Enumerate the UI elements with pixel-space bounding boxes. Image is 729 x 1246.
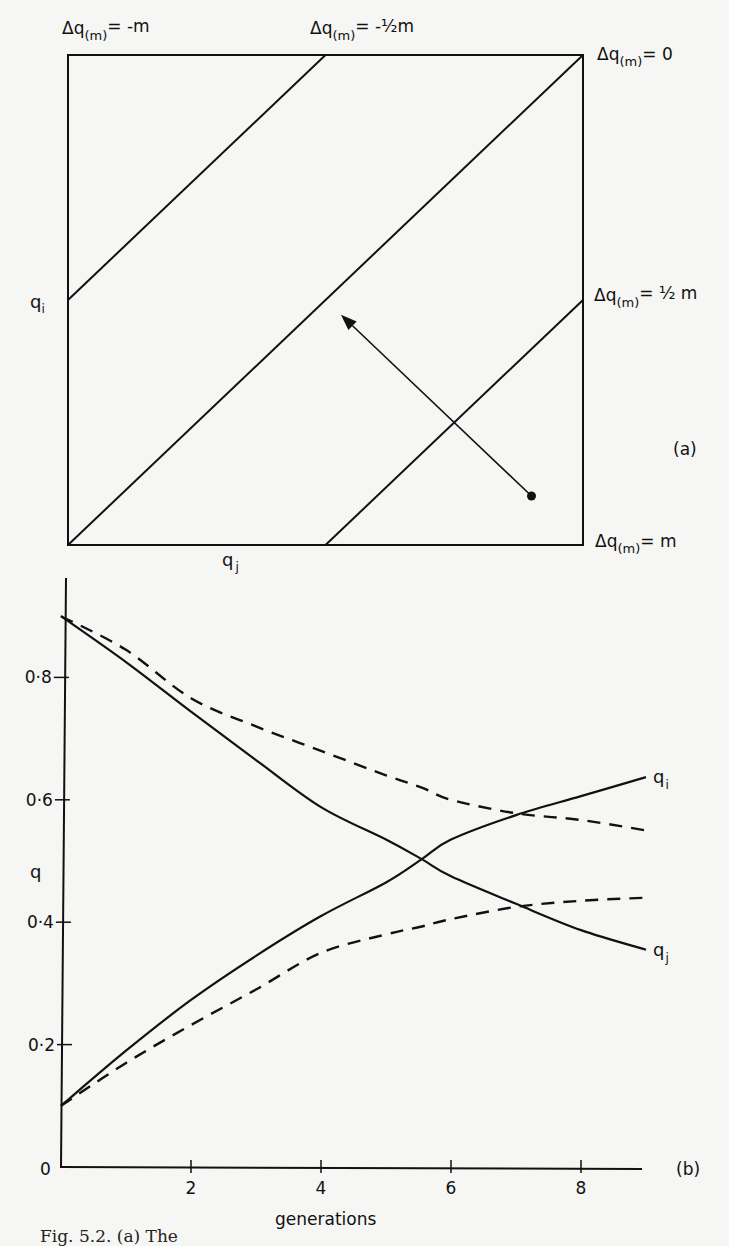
x-tick-label: 8 [576, 1178, 587, 1198]
start-point-dot [527, 492, 536, 501]
label-pos-m: Δq(m)= m [595, 531, 676, 556]
series-end-labels: qiqj [653, 766, 669, 965]
y-axis-label: q [30, 861, 41, 882]
series-line-q-j-dashed [61, 616, 646, 830]
axis-label-qi: qi [30, 291, 45, 316]
panel-b-line-chart: 2468 0·20·40·60·8 qiqj 0 q generations (… [25, 578, 700, 1229]
y-tick-label: 0·2 [28, 1035, 55, 1055]
x-tick-label: 6 [446, 1178, 457, 1198]
trajectory-arrow [353, 326, 532, 496]
panel-a-phase-diagram: Δq(m)= -m Δq(m)= -½m Δq(m)= 0 Δq(m)= ½ m… [30, 16, 697, 574]
label-neg-half-m: Δq(m)= -½m [310, 16, 414, 43]
series-line-q-i-dashed [61, 898, 646, 1106]
panel-label-b: (b) [676, 1159, 700, 1179]
panel-label-a: (a) [673, 439, 697, 459]
y-tick-label: 0·4 [27, 912, 54, 932]
figure-caption: Fig. 5.2. (a) The [40, 1226, 178, 1246]
series [61, 616, 646, 1106]
y-tick-label: 0·6 [26, 790, 53, 810]
y-tick-label: 0·8 [25, 667, 52, 687]
delta-neg-half-line [68, 55, 326, 300]
x-axis-label: generations [275, 1209, 376, 1229]
x-tick-label: 2 [186, 1178, 197, 1198]
label-pos-half-m: Δq(m)= ½ m [594, 283, 697, 310]
label-zero: Δq(m)= 0 [597, 44, 673, 69]
x-tick-label: 4 [316, 1178, 327, 1198]
x-ticks: 2468 [186, 1160, 587, 1198]
axis-label-qj: qj [222, 549, 239, 574]
series-end-label: qi [653, 766, 669, 792]
y-axis [61, 578, 66, 1168]
series-end-label: qj [653, 939, 669, 965]
label-neg-m: Δq(m)= -m [62, 16, 150, 43]
x-axis [61, 1167, 642, 1169]
origin-label: 0 [40, 1159, 51, 1179]
